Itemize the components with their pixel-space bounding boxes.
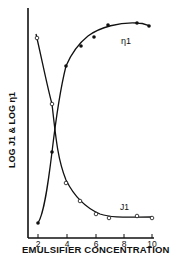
x-axis-label: EMULSIFIER CONCENTRATION [22,244,170,255]
y-axis-label-text: LOG J1 & LOG η1 [7,92,17,168]
j1-points [35,36,154,220]
eta1-points [36,21,151,225]
eta1-label: η1 [121,36,131,46]
chart-canvas: 2 4 6 8 10 η1 J1 [0,0,187,258]
y-axis-label: LOG J1 & LOG η1 [2,60,22,200]
j1-label: J1 [120,202,129,212]
j1-curve [36,34,152,217]
